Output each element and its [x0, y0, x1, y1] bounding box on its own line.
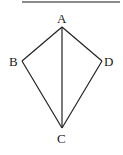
segment-BC — [22, 61, 62, 128]
segment-CD — [62, 61, 102, 128]
label-B: B — [9, 54, 18, 69]
kite-diagram: A B C D — [0, 0, 123, 155]
segment-DA — [62, 27, 102, 61]
label-C: C — [57, 131, 66, 146]
label-A: A — [57, 11, 67, 26]
segment-AB — [22, 27, 62, 61]
label-D: D — [104, 54, 113, 69]
